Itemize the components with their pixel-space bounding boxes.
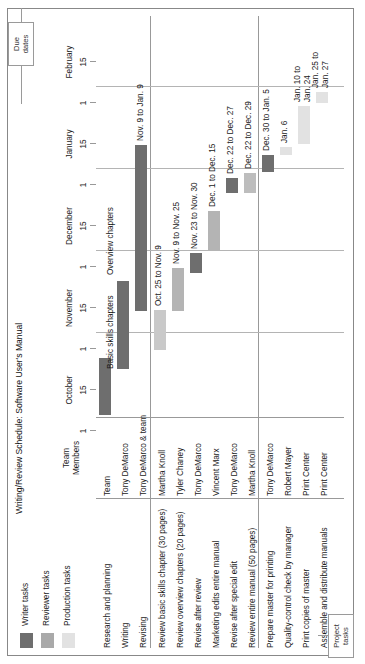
legend-item-production-tasks: Production tasks xyxy=(60,544,77,648)
team-row: Tyler Chaney xyxy=(169,420,187,496)
team-label: Tony DeMarco xyxy=(121,443,130,496)
team-row: Team xyxy=(96,420,114,496)
task-label: Review entire manual (50 pages) xyxy=(248,528,257,648)
axis-month-december: December xyxy=(65,207,74,245)
axis-day-feb-1: 1 xyxy=(79,101,88,106)
rotated-figure-wrapper: Writer tasks Reviewer tasks Production t… xyxy=(0,0,365,664)
gantt-note-revising: Nov. 9 to Jan. 9 xyxy=(136,84,146,141)
plot-gridline-dec-1 xyxy=(96,250,344,251)
team-row: Robert Mayer xyxy=(277,420,295,496)
task-row: Review basic skills chapter (30 pages) xyxy=(151,500,169,648)
callout-project-tasks: Project tasks xyxy=(328,614,354,658)
gantt-bar-revise-after-review[interactable] xyxy=(190,253,202,273)
team-label: Martha Knoll xyxy=(248,450,257,496)
gantt-bar-writing[interactable] xyxy=(117,281,129,369)
plot-gridline-nov-1 xyxy=(96,332,344,333)
axis-month-february: February xyxy=(65,46,74,79)
team-label: Robert Mayer xyxy=(284,446,293,496)
time-axis-inner: October November December January Februa… xyxy=(52,16,96,431)
gantt-note-prepare-master-for-printing: Dec. 30 to Jan. 5 xyxy=(262,89,272,151)
task-name-column: Research and planning Writing Revising R… xyxy=(96,500,344,648)
callout-due-dates: Due dates xyxy=(8,22,34,66)
axis-day-nov-1: 1 xyxy=(79,347,88,352)
axis-day-dec-1: 1 xyxy=(79,265,88,270)
gantt-note-basic-skills-chapters: Basic skills chapters xyxy=(106,295,116,369)
team-row: Vincent Marx xyxy=(205,420,223,496)
task-row: Review overview chapters (20 pages) xyxy=(169,500,187,648)
gantt-bar-review-basic-skills-chapter[interactable] xyxy=(154,310,166,350)
axis-day-jan-1: 1 xyxy=(79,183,88,188)
team-label: Tony DeMarco xyxy=(266,443,275,496)
task-label: Review basic skills chapter (30 pages) xyxy=(158,509,167,648)
task-row: Prepare master for printing xyxy=(259,500,277,648)
legend-item-reviewer-tasks: Reviewer tasks xyxy=(39,544,56,648)
column-divider-team xyxy=(96,417,344,418)
task-row: Marketing edits entire manual xyxy=(205,500,223,648)
task-row: Writing xyxy=(114,500,132,648)
task-label: Prepare master for printing xyxy=(266,551,275,648)
gantt-bar-marketing-edits-entire-manual[interactable] xyxy=(208,211,220,251)
team-label: Print Center xyxy=(302,452,311,496)
gantt-bar-prepare-master-for-printing[interactable] xyxy=(262,155,274,172)
task-label: Revising xyxy=(139,617,148,648)
task-label: Marketing edits entire manual xyxy=(212,541,221,648)
task-label: Revise after review xyxy=(194,578,203,648)
gantt-bar-review-entire-manual[interactable] xyxy=(244,173,256,193)
axis-month-november: November xyxy=(65,289,74,327)
legend-item-writer-tasks: Writer tasks xyxy=(18,544,35,648)
legend-label-writer: Writer tasks xyxy=(22,583,30,626)
gantt-note-marketing-edits-entire-manual: Dec. 1 to Dec. 15 xyxy=(208,144,218,207)
legend-swatch-reviewer xyxy=(41,633,54,648)
gantt-bar-review-overview-chapters[interactable] xyxy=(172,268,184,311)
team-members-header-line2: Members xyxy=(72,420,82,496)
task-label: Writing xyxy=(121,623,130,648)
team-label: Tony DeMarco xyxy=(194,443,203,496)
legend-swatch-writer xyxy=(20,633,33,648)
team-row: Martha Knoll xyxy=(151,420,169,496)
task-row: Research and planning xyxy=(96,500,114,648)
gantt-note-quality-control-check: Jan. 6 xyxy=(280,121,290,143)
task-label: Review overview chapters (20 pages) xyxy=(176,511,185,648)
team-label: Tyler Chaney xyxy=(176,448,185,496)
callout-due-dates-leader-right xyxy=(21,8,22,22)
legend: Writer tasks Reviewer tasks Production t… xyxy=(18,544,82,648)
task-label: Revise after special edit xyxy=(230,561,239,648)
task-row: Revise after review xyxy=(187,500,205,648)
axis-day-jan-15: 15 xyxy=(79,139,88,148)
chart-title: Writing/Review Schedule: Software User's… xyxy=(14,323,24,514)
task-label: Research and planning xyxy=(103,564,112,648)
gantt-note-print-copies-of-master-line1: Jan. 10 to xyxy=(293,66,303,102)
gantt-bar-assemble-and-distribute-manuals[interactable] xyxy=(316,92,328,103)
team-row: Print Center xyxy=(295,420,313,496)
callout-due-dates-line1: Due xyxy=(12,27,21,61)
team-members-header: Team Members xyxy=(62,420,82,496)
task-row: Print copies of master xyxy=(295,500,313,648)
gantt-bar-print-copies-of-master[interactable] xyxy=(298,106,310,144)
team-row: Tony DeMarco xyxy=(187,420,205,496)
callout-project-tasks-leader xyxy=(318,635,328,636)
task-row: Revise after special edit xyxy=(223,500,241,648)
task-row: Review entire manual (50 pages) xyxy=(241,500,259,648)
gantt-bar-quality-control-check[interactable] xyxy=(280,147,292,155)
team-row: Tony DeMarco xyxy=(114,420,132,496)
team-label: Team xyxy=(103,476,112,496)
gantt-chart-figure: Writer tasks Reviewer tasks Production t… xyxy=(0,0,365,664)
gantt-bar-revising[interactable] xyxy=(135,145,147,311)
task-row: Quality-control check by manager xyxy=(277,500,295,648)
gantt-note-overview-chapters: Overview chapters xyxy=(106,207,116,275)
callout-due-dates-leader xyxy=(21,66,22,104)
gantt-plot-area: Basic skills chapters Overview chapters … xyxy=(96,16,344,415)
gantt-bar-revise-after-special-edit[interactable] xyxy=(226,178,238,193)
gantt-grid: Team Members Research and planning Writi… xyxy=(96,16,344,648)
team-label: Martha Knoll xyxy=(158,450,167,496)
callout-due-dates-line2: dates xyxy=(21,27,30,61)
team-row: Martha Knoll xyxy=(241,420,259,496)
axis-day-dec-15: 15 xyxy=(79,221,88,230)
time-axis-header: October November December January Februa… xyxy=(52,16,96,431)
callout-project-tasks-line1: Project xyxy=(332,619,341,653)
team-label: Tony DeMarco & team xyxy=(139,415,148,496)
axis-day-feb-15: 15 xyxy=(79,57,88,66)
team-label: Tony DeMarco xyxy=(230,443,239,496)
gantt-note-assemble-and-distribute-line2: Jan. 27 xyxy=(321,61,331,88)
team-row: Print Center xyxy=(313,420,331,496)
